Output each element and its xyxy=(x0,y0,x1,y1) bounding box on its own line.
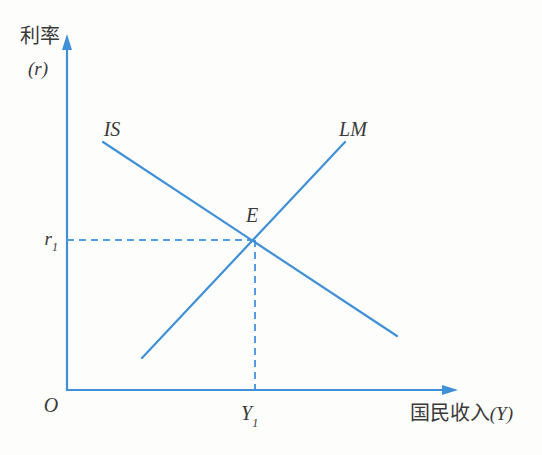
r1-label-sub: 1 xyxy=(52,240,58,254)
y1-label-sub: 1 xyxy=(252,416,258,430)
y-axis-title: 利率 xyxy=(20,25,60,47)
x-axis-title: 国民收入(Y) xyxy=(410,402,513,425)
origin-label: O xyxy=(44,394,58,416)
lm-curve xyxy=(142,142,345,358)
r1-label: r1 xyxy=(45,228,58,254)
y-axis-arrowhead-icon xyxy=(62,34,72,50)
lm-curve-label: LM xyxy=(338,118,368,140)
is-lm-diagram: 利率 (r) IS LM E r1 Y1 O 国民收入(Y) xyxy=(0,0,542,455)
equilibrium-label: E xyxy=(245,204,258,226)
is-lm-figure: 利率 (r) IS LM E r1 Y1 O 国民收入(Y) xyxy=(0,0,542,455)
is-curve-label: IS xyxy=(103,118,121,140)
x-axis-title-cjk: 国民收入 xyxy=(410,402,490,424)
x-axis-arrowhead-icon xyxy=(442,385,458,395)
y1-label: Y1 xyxy=(241,402,258,430)
y-axis-symbol: (r) xyxy=(28,58,48,80)
x-axis-symbol: (Y) xyxy=(490,403,513,425)
is-curve xyxy=(103,142,397,336)
